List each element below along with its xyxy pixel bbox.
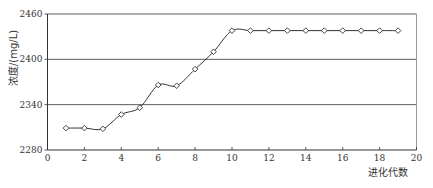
- data-point-diamond-icon: [63, 125, 69, 131]
- data-point-diamond-icon: [119, 112, 125, 118]
- x-tick-label: 4: [118, 153, 124, 163]
- data-point-diamond-icon: [303, 28, 309, 34]
- data-point-diamond-icon: [266, 28, 272, 34]
- x-tick-label: 16: [337, 153, 349, 163]
- x-tick-label: 0: [45, 153, 51, 163]
- x-tick-label: 18: [374, 153, 386, 163]
- y-tick-label: 2400: [20, 54, 43, 64]
- data-point-diamond-icon: [340, 28, 346, 34]
- data-point-diamond-icon: [100, 126, 106, 132]
- x-tick-labels: 02468101214161820: [45, 153, 423, 163]
- data-point-diamond-icon: [248, 28, 254, 34]
- y-axis-title-group: 浓度/(mg/L): [7, 30, 19, 86]
- data-series: [63, 28, 401, 132]
- series-line-0: [66, 29, 398, 130]
- y-tick-label: 2460: [20, 9, 43, 19]
- x-tick-label: 12: [263, 153, 274, 163]
- y-axis-title: 浓度/(mg/L): [7, 30, 19, 86]
- x-tick-label: 14: [300, 153, 312, 163]
- x-tick-label: 2: [82, 153, 88, 163]
- x-axis-title: 进化代数: [368, 166, 408, 178]
- data-point-diamond-icon: [82, 125, 88, 131]
- y-tick-label: 2340: [20, 100, 43, 110]
- x-tick-label: 10: [226, 153, 238, 163]
- y-tick-labels: 2280234024002460: [20, 9, 43, 155]
- data-point-diamond-icon: [358, 28, 364, 34]
- line-chart: 浓度/(mg/L) 进化代数 2280234024002460 02468101…: [0, 0, 433, 188]
- x-tick-label: 8: [192, 153, 198, 163]
- x-tick-label: 20: [411, 153, 423, 163]
- x-tick-label: 6: [155, 153, 161, 163]
- data-point-diamond-icon: [174, 83, 180, 89]
- data-point-diamond-icon: [377, 28, 383, 34]
- data-point-diamond-icon: [395, 28, 401, 34]
- y-tick-label: 2280: [20, 145, 43, 155]
- data-point-diamond-icon: [285, 28, 291, 34]
- data-point-diamond-icon: [321, 28, 327, 34]
